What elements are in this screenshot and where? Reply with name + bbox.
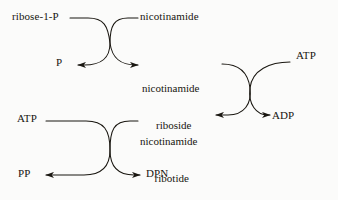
label-nicotinamide-ribotide-line1: nicotinamide — [140, 135, 197, 147]
label-phosphate: P — [56, 57, 62, 69]
pathway-diagram: ribose-1-P nicotinamide P nicotinamide r… — [0, 0, 338, 200]
curve-atp-to-dpn — [46, 121, 140, 175]
label-pp: PP — [18, 168, 30, 180]
curve-atp-to-adp — [250, 62, 290, 115]
label-atp-left: ATP — [17, 113, 37, 125]
label-ribose-1-p: ribose-1-P — [12, 11, 59, 23]
curve-nicotinamide-to-p — [78, 18, 138, 65]
label-dpn: DPN — [146, 168, 168, 180]
curve-riboside-to-ribotide — [216, 64, 250, 115]
curve-ribose1p-to-riboside — [70, 18, 138, 65]
curve-ribotide-to-pp — [46, 121, 138, 175]
label-nicotinamide: nicotinamide — [140, 11, 199, 23]
label-atp-right: ATP — [296, 50, 316, 62]
label-nicotinamide-ribotide: nicotinamide ribotide — [140, 110, 197, 200]
label-nicotinamide-riboside-line1: nicotinamide — [142, 82, 199, 94]
label-adp: ADP — [272, 110, 294, 122]
